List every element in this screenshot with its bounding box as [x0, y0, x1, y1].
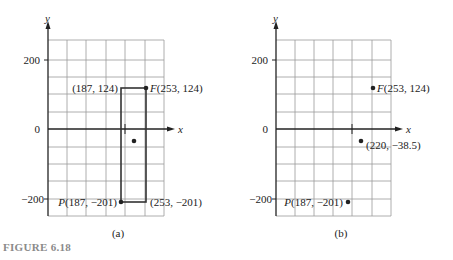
panel-b-sublabel: (b) [335, 227, 348, 240]
panel-a-sublabel: (a) [112, 227, 125, 240]
x-axis-arrow-icon [395, 127, 403, 132]
x-axis-label: x [177, 123, 183, 135]
label-bottom-right: (253, −201) [150, 196, 202, 209]
label-mid: (220, −38.5) [366, 139, 421, 152]
x-axis-arrow-icon [167, 127, 175, 132]
y-axis-label: y [44, 12, 50, 24]
y-tick-0: 0 [35, 123, 41, 135]
y-tick-200: 200 [24, 54, 41, 66]
label-F: F(253, 124) [149, 82, 203, 95]
label-P: P(187, −201) [283, 196, 343, 209]
point-center [132, 139, 137, 144]
label-F: F(253, 124) [376, 82, 430, 95]
figure-caption: FIGURE 6.18 [3, 241, 71, 253]
y-tick-neg200: −200 [249, 193, 272, 205]
y-tick-neg200: −200 [21, 193, 44, 205]
point-P [119, 200, 124, 205]
grid-b [276, 40, 391, 216]
point-F [371, 86, 376, 91]
point-F [144, 86, 149, 91]
panel-a: x y 200 0 −200 (187, 124) F(253, 124) P(… [21, 12, 203, 240]
panel-b: x y 200 0 −200 F(253, 124) (220, −38.5) … [249, 12, 430, 240]
point-P [346, 200, 351, 205]
y-tick-200: 200 [252, 54, 269, 66]
y-axis-label: y [272, 12, 278, 24]
label-P: P(187, −201) [57, 196, 117, 209]
x-axis-label: x [405, 123, 411, 135]
label-top-left: (187, 124) [72, 82, 118, 95]
y-tick-0: 0 [263, 123, 269, 135]
point-mid [359, 139, 364, 144]
